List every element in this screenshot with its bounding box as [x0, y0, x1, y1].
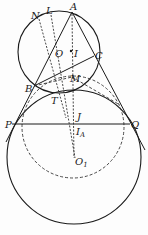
- line-ab-extended: [6, 12, 72, 142]
- label-t: T: [51, 95, 59, 106]
- dashed-l-to-o1: [51, 15, 75, 158]
- label-b: B: [24, 83, 32, 94]
- diagram-svg: A N L O I C M B T P Q J IA O1: [0, 0, 148, 235]
- label-j: J: [75, 111, 82, 122]
- label-l: L: [45, 5, 53, 16]
- label-o: O: [55, 48, 63, 59]
- label-m: M: [69, 73, 81, 84]
- dashed-a-to-o1: [72, 14, 74, 158]
- dashed-b-to-m: [34, 77, 72, 86]
- label-a: A: [69, 1, 77, 12]
- label-n: N: [30, 10, 41, 21]
- label-i: I: [73, 48, 79, 59]
- label-c: C: [95, 50, 103, 61]
- label-q: Q: [131, 119, 139, 130]
- incenter-dot: [70, 50, 72, 52]
- line-bc: [34, 56, 94, 86]
- label-p: P: [4, 119, 12, 130]
- label-ia: IA: [75, 126, 85, 139]
- label-o1: O1: [75, 156, 88, 169]
- geometry-diagram: A N L O I C M B T P Q J IA O1: [0, 0, 148, 235]
